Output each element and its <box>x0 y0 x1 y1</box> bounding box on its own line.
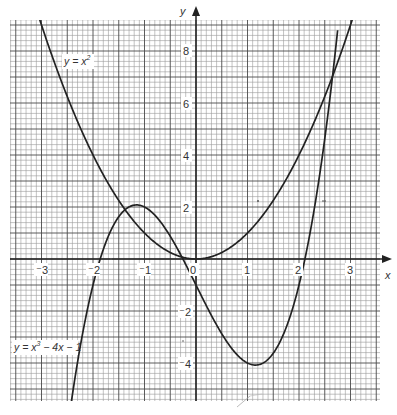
y-tick-4: 4 <box>183 150 189 162</box>
parabola-label: y = x2 <box>62 54 94 69</box>
pencil-stroke <box>237 396 250 407</box>
x-tick-1: 1 <box>244 264 250 276</box>
stray-dot <box>182 340 184 342</box>
x-axis-label: x <box>384 269 391 281</box>
x-tick-m1: ⁻1 <box>139 264 151 276</box>
svg-text:y = x3 − 4x − 1: y = x3 − 4x − 1 <box>13 340 81 353</box>
cubic-label: y = x3 − 4x − 1 <box>12 340 81 355</box>
stray-dot <box>257 200 259 202</box>
y-tick-m2: ⁻2 <box>179 306 191 318</box>
x-tick-0: 0 <box>190 264 196 276</box>
x-tick-m2: ⁻2 <box>88 264 100 276</box>
y-tick-8: 8 <box>183 45 189 57</box>
y-tick-2: 2 <box>183 202 189 214</box>
graph-plot: y x ⁻3 ⁻2 ⁻1 0 1 2 3 8 6 4 2 ⁻2 ⁻4 y = x… <box>0 0 397 415</box>
x-axis-arrow-icon <box>382 255 392 263</box>
y-axis-arrow-icon <box>192 6 200 16</box>
stray-dot <box>110 258 112 260</box>
x-tick-3: 3 <box>347 264 353 276</box>
x-tick-m3: ⁻3 <box>36 264 48 276</box>
y-tick-6: 6 <box>183 98 189 110</box>
svg-text:y = x2: y = x2 <box>63 54 90 67</box>
y-axis-label: y <box>179 5 187 17</box>
y-tick-m4: ⁻4 <box>179 358 191 370</box>
x-tick-2: 2 <box>295 264 301 276</box>
